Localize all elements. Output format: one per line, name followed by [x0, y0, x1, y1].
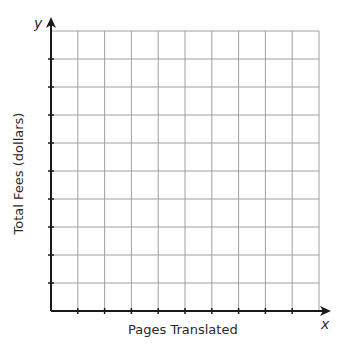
y-axis-variable: y	[34, 15, 42, 31]
axes	[46, 17, 331, 316]
x-axis-variable: x	[321, 316, 329, 332]
grid-lines	[51, 31, 319, 311]
y-axis-label: Total Fees (dollars)	[11, 104, 26, 244]
coordinate-grid	[0, 0, 357, 359]
x-axis-label: Pages Translated	[128, 322, 238, 337]
